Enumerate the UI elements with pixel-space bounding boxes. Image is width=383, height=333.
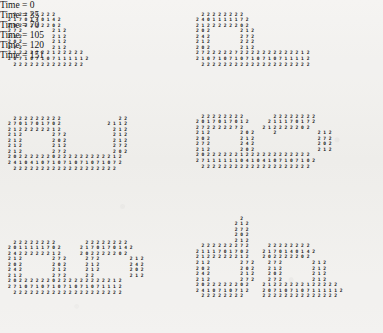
panel-caption-time-0: Time = 0 [0,0,383,10]
lattice-grid-time-35: 2 2 2 2 2 2 2 2 2 4 0 1 1 1 1 1 7 2 2 1 … [196,13,309,68]
lattice-grid-time-151: 2 2 1 2 2 7 2 2 0 2 2 1 2 2 2 2 2 2 2 2 … [196,217,343,300]
lattice-grid-time-120: 2 2 2 2 2 2 2 2 2 2 2 2 2 2 2 2 2 0 1 1 … [8,241,144,296]
lattice-grid-time-70: 2 2 2 2 2 2 2 2 2 2 2 2 7 0 1 7 0 1 7 0 … [8,117,127,172]
figure-container: 2 2 2 2 2 2 2 2 2 1 7 0 1 4 0 1 4 2 2 0 … [0,0,383,333]
lattice-grid-time-105: 2 2 2 2 2 2 2 2 2 2 2 2 2 2 2 2 2 0 1 7 … [196,115,332,170]
lattice-grid-time-0: 2 2 2 2 2 2 2 2 2 1 7 0 1 4 0 1 4 2 2 0 … [8,13,88,68]
